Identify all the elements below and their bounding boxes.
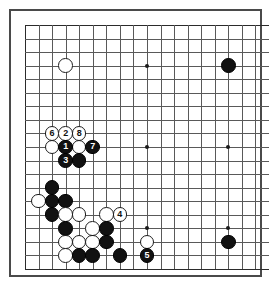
white-stone[interactable] xyxy=(72,235,87,250)
move-number-label: 7 xyxy=(86,141,99,154)
star-point xyxy=(145,226,149,230)
black-stone[interactable] xyxy=(99,235,114,250)
black-stone[interactable] xyxy=(45,207,60,222)
go-diagram-root: 62817345 xyxy=(0,0,269,291)
move-stone-1[interactable]: 1 xyxy=(58,140,73,155)
star-point xyxy=(145,145,149,149)
move-stone-8[interactable]: 8 xyxy=(72,126,87,141)
black-stone[interactable] xyxy=(72,153,87,168)
grid-line-vertical xyxy=(188,25,189,269)
black-stone[interactable] xyxy=(85,248,100,263)
white-stone[interactable] xyxy=(140,235,155,250)
white-stone[interactable] xyxy=(72,140,87,155)
move-stone-4[interactable]: 4 xyxy=(113,207,128,222)
grid-line-vertical xyxy=(215,25,216,269)
grid-line-horizontal xyxy=(25,269,269,270)
black-stone[interactable] xyxy=(58,194,73,209)
black-stone[interactable] xyxy=(113,248,128,263)
move-stone-3[interactable]: 3 xyxy=(58,153,73,168)
grid-line-vertical xyxy=(255,25,256,269)
white-stone[interactable] xyxy=(58,235,73,250)
white-stone[interactable] xyxy=(45,140,60,155)
white-stone[interactable] xyxy=(72,207,87,222)
move-number-label: 4 xyxy=(114,208,127,221)
move-stone-6[interactable]: 6 xyxy=(45,126,60,141)
white-stone[interactable] xyxy=(58,58,73,73)
black-stone[interactable] xyxy=(221,58,236,73)
move-stone-5[interactable]: 5 xyxy=(140,248,155,263)
white-stone[interactable] xyxy=(31,194,46,209)
white-stone[interactable] xyxy=(85,235,100,250)
move-number-label: 1 xyxy=(59,141,72,154)
grid-line-vertical xyxy=(174,25,175,269)
black-stone[interactable] xyxy=(45,180,60,195)
black-stone[interactable] xyxy=(58,221,73,236)
move-number-label: 5 xyxy=(141,249,154,262)
black-stone[interactable] xyxy=(45,194,60,209)
star-point xyxy=(145,64,149,68)
go-board[interactable]: 62817345 xyxy=(25,25,269,269)
white-stone[interactable] xyxy=(58,248,73,263)
white-stone[interactable] xyxy=(58,207,73,222)
move-number-label: 8 xyxy=(73,127,86,140)
star-point xyxy=(226,226,230,230)
grid-line-vertical xyxy=(161,25,162,269)
move-number-label: 6 xyxy=(46,127,59,140)
move-stone-2[interactable]: 2 xyxy=(58,126,73,141)
star-point xyxy=(226,145,230,149)
grid-line-vertical xyxy=(242,25,243,269)
grid-line-horizontal xyxy=(25,188,269,189)
grid-line-horizontal xyxy=(25,174,269,175)
black-stone[interactable] xyxy=(221,235,236,250)
grid-line-vertical xyxy=(201,25,202,269)
board-frame: 62817345 xyxy=(9,9,262,277)
black-stone[interactable] xyxy=(99,221,114,236)
white-stone[interactable] xyxy=(85,221,100,236)
move-number-label: 3 xyxy=(59,154,72,167)
black-stone[interactable] xyxy=(72,248,87,263)
white-stone[interactable] xyxy=(99,207,114,222)
move-number-label: 2 xyxy=(59,127,72,140)
move-stone-7[interactable]: 7 xyxy=(85,140,100,155)
